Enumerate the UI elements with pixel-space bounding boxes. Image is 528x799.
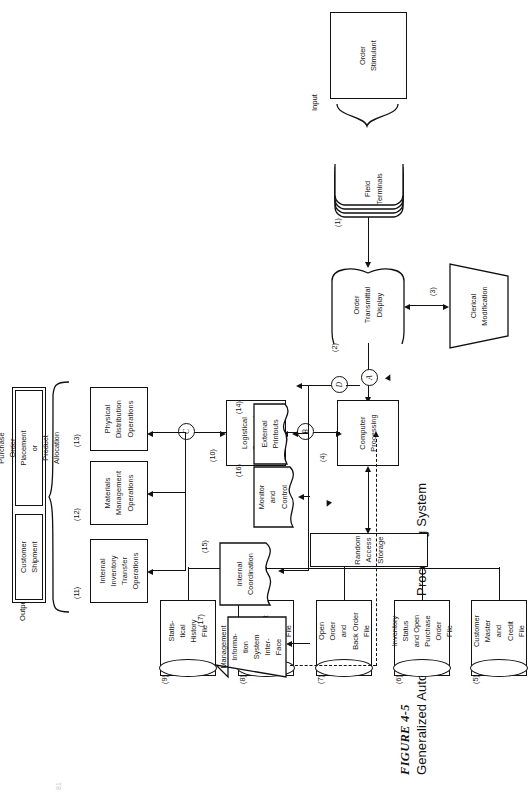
flow-dashed-mis-to-processing [376, 434, 377, 666]
connector-b: B [297, 423, 314, 440]
node-internal-inventory-transfer: InternalInventoryTransferOperations [90, 539, 148, 603]
node-computer-processing: ComputerProcessing [337, 400, 399, 466]
input-caption: Input [310, 94, 319, 111]
node-number-16: (16) [234, 464, 243, 477]
page-number: 81 [55, 782, 62, 790]
connector-a: A [361, 369, 378, 386]
node-random-access-storage-label: Random Access Storage [352, 535, 386, 564]
flow-d-down [346, 385, 360, 386]
node-number-3: (3) [428, 287, 437, 296]
node-random-access-storage: Random Access Storage [310, 533, 428, 567]
node-number-13: (13) [72, 434, 81, 447]
flow-dashed-mis-down [290, 665, 376, 666]
node-inventory-status-po-file-label: InventoryStatusand OpenPurchaseOrderFile [394, 600, 450, 676]
storage-branch-6 [422, 567, 423, 603]
node-customer-master-credit-file-label: CustomerMasterandCreditFile [471, 600, 527, 676]
node-order-transmittal-display-label: OrderTransmittalDisplay [330, 266, 406, 344]
node-number-10: (10) [208, 449, 217, 462]
flow-d-up [300, 385, 331, 386]
node-clerical-modification: ClericalModification [448, 262, 510, 350]
node-materials-management: MaterialsManagementOperations [90, 461, 148, 525]
flow-storage-to-processing [368, 469, 369, 529]
node-number-11: (11) [72, 587, 81, 599]
node-number-4: (4) [318, 453, 327, 462]
node-management-info-interface-label: ManagementInforma-tionSystemInter-Face [214, 615, 288, 679]
node-field-terminals: FieldTerminals [333, 163, 405, 219]
flow-terminals-to-display [368, 217, 369, 263]
arrowhead-ops-down [220, 431, 226, 437]
input-brace [336, 102, 400, 154]
arrowhead-to-monitor [298, 495, 304, 501]
ops-branch-13 [152, 432, 186, 433]
node-external-printouts: ExternalPrintouts [252, 402, 294, 466]
flow-display-to-clerical [408, 305, 444, 306]
arrowhead-d-up [296, 384, 302, 390]
storage-branch-5 [499, 567, 500, 603]
node-number-12: (12) [72, 508, 81, 521]
node-order-transmittal-display: OrderTransmittalDisplay [330, 266, 406, 344]
node-monitor-and-control: MonitorandControl [252, 465, 300, 529]
output-cell-purchase-order-placement: PurchaseOrderPlacementorProductAllocatio… [15, 390, 43, 506]
node-internal-inventory-transfer-label: InternalInventoryTransferOperations [97, 552, 141, 589]
node-statistical-history-file-label: Statis-ticalHistoryFile [160, 600, 216, 676]
reporting-trunk [308, 385, 309, 571]
node-monitor-and-control-label: MonitorandControl [252, 465, 300, 529]
output-panel: CustomerShipment PurchaseOrderPlacemento… [12, 387, 46, 603]
arrowhead-storage-left [365, 528, 371, 534]
arrowhead-clerical-to-display [404, 304, 410, 310]
output-brace [48, 381, 70, 613]
ops-branch-11 [152, 570, 186, 571]
node-number-2: (2) [330, 343, 339, 352]
node-physical-distribution: PhysicalDistributionOperations [90, 387, 148, 451]
node-clerical-modification-label: ClericalModification [448, 262, 510, 350]
arrowhead-to-printouts [292, 432, 298, 438]
node-number-14: (14) [234, 401, 243, 414]
arrowhead-storage-right [365, 466, 371, 472]
flow-to-internal-coordination [282, 570, 308, 571]
node-statistical-history-file: Statis-ticalHistoryFile [160, 600, 216, 676]
arrowhead-processing-down [336, 431, 342, 437]
node-management-info-interface: ManagementInforma-tionSystemInter-Face [214, 615, 288, 679]
input-panel: OrderStimulant [330, 13, 406, 99]
arrowhead-dashed-to-display [385, 373, 393, 381]
storage-branch-7 [344, 567, 345, 603]
storage-branch-9 [188, 567, 189, 603]
arrowhead-dashed-to-storage [324, 500, 332, 508]
node-external-printouts-label: ExternalPrintouts [252, 402, 294, 466]
node-number-5: (5) [471, 675, 480, 684]
node-internal-coordination-label: InternalCoordination [218, 541, 278, 607]
flow-to-mis-solid [290, 643, 310, 644]
node-number-1: (1) [333, 218, 342, 227]
arrowhead-dashed-mis [373, 431, 379, 437]
node-number-6: (6) [394, 675, 403, 684]
node-number-9: (9) [160, 675, 169, 684]
node-internal-coordination: InternalCoordination [218, 541, 278, 607]
output-cell-customer-shipment: CustomerShipment [15, 514, 43, 600]
node-physical-distribution-label: PhysicalDistributionOperations [102, 400, 135, 438]
node-inventory-status-po-file: InventoryStatusand OpenPurchaseOrderFile [394, 600, 450, 676]
node-number-7: (7) [316, 675, 325, 684]
node-number-15: (15) [200, 540, 209, 553]
node-number-17: (17) [196, 614, 205, 627]
node-materials-management-label: MaterialsManagementOperations [102, 471, 135, 515]
ops-branch-12 [152, 492, 186, 493]
arrowhead-to-internal-coordination [278, 569, 284, 575]
ops-bus-horizontal [185, 432, 186, 571]
arrowhead-to-mis [286, 642, 292, 648]
input-cell-order-stimulant: OrderStimulant [330, 12, 407, 99]
node-field-terminals-label: FieldTerminals [333, 163, 405, 219]
node-customer-master-credit-file: CustomerMasterandCreditFile [471, 600, 527, 676]
